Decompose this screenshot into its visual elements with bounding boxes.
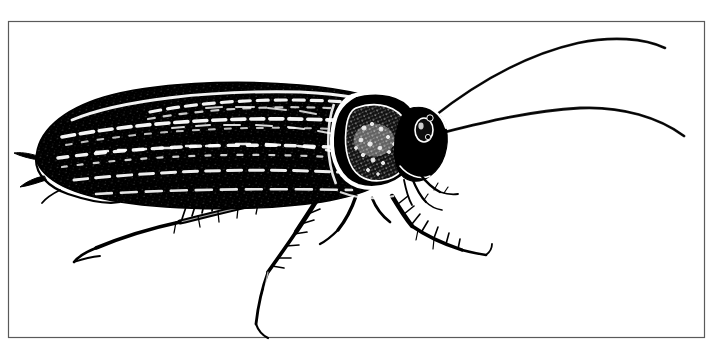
figure-root: Cockroach [0,0,714,351]
cockroach-illustration [0,0,714,351]
